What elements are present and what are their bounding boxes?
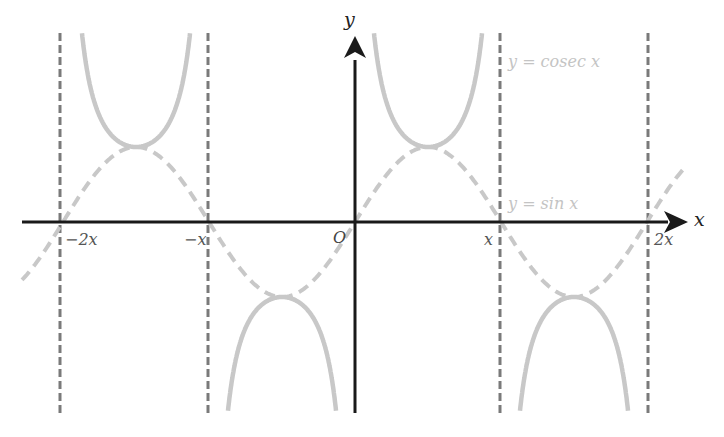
cosec-branch-0-pi — [374, 33, 482, 147]
tick-label-2pi: 2x — [654, 230, 673, 249]
sin-curve-label: y = sin x — [508, 194, 578, 213]
tick-label-pi: x — [484, 230, 493, 249]
cosec-branch-negpi-0 — [228, 297, 336, 411]
y-axis-arrow-icon — [344, 36, 366, 58]
tick-label-neg-pi: −x — [184, 230, 206, 249]
cosec-branch-neg2pi-negpi — [82, 33, 190, 147]
origin-label: O — [333, 228, 346, 247]
cosec-curve-label: y = cosec x — [508, 52, 600, 71]
x-axis-label: x — [694, 208, 705, 230]
cosec-branch-pi-2pi — [520, 297, 628, 411]
tick-label-neg-2pi: −2x — [65, 230, 98, 249]
y-axis-label: y — [344, 8, 355, 30]
graph-canvas — [0, 0, 724, 437]
